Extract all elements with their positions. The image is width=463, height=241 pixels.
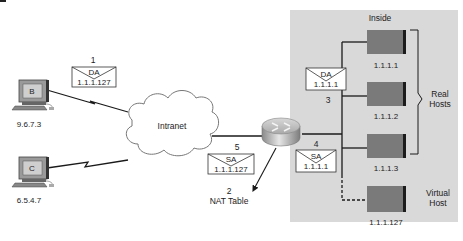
intranet-label: Intranet [158, 121, 187, 131]
real-hosts-label-line1: Real [431, 89, 449, 99]
host-b-ip: 9.6.7.3 [17, 120, 42, 129]
packet-3-addr: 1.1.1.1 [314, 80, 339, 89]
step-4-label: 4 [314, 139, 319, 149]
inside-label: Inside [369, 13, 392, 23]
nat-table-arrow [254, 148, 276, 189]
virtual-host-server [367, 186, 406, 212]
packet-3-field: DA [320, 70, 332, 79]
server-2 [367, 82, 406, 106]
link-host-c-to-intranet [47, 160, 128, 168]
host-c-id: C [29, 164, 35, 173]
server-3-ip: 1.1.1.3 [374, 164, 399, 173]
virtual-host-label-line1: Virtual [426, 188, 450, 198]
virtual-host-label-line2: Host [429, 198, 447, 208]
host-c-ip: 6.5.4.7 [17, 196, 42, 205]
step-1-label: 1 [91, 55, 96, 65]
server-2-ip: 1.1.1.2 [374, 112, 399, 121]
packet-4-addr: 1.1.1.1 [304, 162, 329, 171]
packet-1-addr: 1.1.1.127 [77, 78, 111, 87]
real-hosts-label-line2: Hosts [429, 99, 451, 109]
host-b-id: B [29, 87, 34, 96]
virtual-host-ip: 1.1.1.127 [369, 218, 403, 227]
packet-5-addr: 1.1.1.127 [214, 165, 248, 174]
step-5-label: 5 [235, 142, 240, 152]
step-3-label: 3 [326, 95, 331, 105]
link-host-b-to-intranet [47, 90, 128, 112]
nat-table-label: NAT Table [210, 196, 249, 206]
nat-step-label: 2 [227, 186, 232, 196]
nat-diagram: Inside 1.1.1.1 1.1.1.2 1.1.1.3 1.1.1.127… [0, 0, 463, 241]
server-3 [367, 134, 406, 158]
server-1-ip: 1.1.1.1 [374, 61, 399, 70]
router-icon [262, 118, 300, 146]
packet-4-field: SA [311, 152, 322, 161]
figure-marker [0, 0, 6, 2]
server-1 [367, 30, 406, 54]
packet-1-field: DA [88, 68, 100, 77]
packet-5-field: SA [226, 155, 237, 164]
